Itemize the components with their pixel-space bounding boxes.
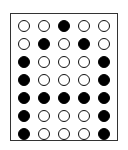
- matrix-cell: [54, 53, 74, 71]
- matrix-cell: [94, 35, 114, 53]
- matrix-cell: [94, 107, 114, 125]
- matrix-cell: [94, 53, 114, 71]
- filled-dot-icon: [78, 38, 90, 50]
- matrix-cell: [74, 53, 94, 71]
- matrix-cell: [54, 89, 74, 107]
- empty-dot-icon: [78, 74, 90, 86]
- filled-dot-icon: [98, 56, 110, 68]
- empty-dot-icon: [58, 110, 70, 122]
- matrix-cell: [14, 71, 34, 89]
- empty-dot-icon: [78, 56, 90, 68]
- empty-dot-icon: [38, 110, 50, 122]
- empty-dot-icon: [78, 20, 90, 32]
- empty-dot-icon: [78, 128, 90, 140]
- empty-dot-icon: [98, 38, 110, 50]
- filled-dot-icon: [58, 92, 70, 104]
- matrix-cell: [74, 89, 94, 107]
- empty-dot-icon: [38, 74, 50, 86]
- filled-dot-icon: [38, 92, 50, 104]
- matrix-cell: [34, 53, 54, 71]
- matrix-cell: [74, 125, 94, 143]
- filled-dot-icon: [78, 92, 90, 104]
- empty-dot-icon: [58, 74, 70, 86]
- filled-dot-icon: [38, 38, 50, 50]
- matrix-cell: [14, 53, 34, 71]
- matrix-cell: [74, 35, 94, 53]
- empty-dot-icon: [78, 110, 90, 122]
- filled-dot-icon: [98, 110, 110, 122]
- matrix-cell: [54, 17, 74, 35]
- filled-dot-icon: [18, 92, 30, 104]
- empty-dot-icon: [58, 38, 70, 50]
- matrix-cell: [34, 17, 54, 35]
- matrix-cell: [94, 89, 114, 107]
- filled-dot-icon: [18, 128, 30, 140]
- matrix-cell: [54, 71, 74, 89]
- matrix-cell: [74, 17, 94, 35]
- filled-dot-icon: [18, 110, 30, 122]
- matrix-cell: [54, 35, 74, 53]
- matrix-cell: [14, 89, 34, 107]
- empty-dot-icon: [18, 38, 30, 50]
- empty-dot-icon: [58, 56, 70, 68]
- filled-dot-icon: [98, 92, 110, 104]
- empty-dot-icon: [58, 128, 70, 140]
- matrix-cell: [34, 107, 54, 125]
- empty-dot-icon: [18, 20, 30, 32]
- empty-dot-icon: [38, 20, 50, 32]
- matrix-cell: [34, 35, 54, 53]
- matrix-cell: [14, 107, 34, 125]
- matrix-cell: [54, 107, 74, 125]
- matrix-cell: [74, 107, 94, 125]
- dot-matrix-grid: [14, 17, 114, 143]
- matrix-cell: [94, 17, 114, 35]
- matrix-cell: [34, 125, 54, 143]
- matrix-cell: [14, 35, 34, 53]
- filled-dot-icon: [98, 74, 110, 86]
- matrix-cell: [14, 17, 34, 35]
- filled-dot-icon: [58, 20, 70, 32]
- filled-dot-icon: [18, 56, 30, 68]
- matrix-cell: [14, 125, 34, 143]
- matrix-cell: [54, 125, 74, 143]
- filled-dot-icon: [18, 74, 30, 86]
- matrix-cell: [34, 89, 54, 107]
- matrix-cell: [94, 125, 114, 143]
- matrix-cell: [74, 71, 94, 89]
- matrix-cell: [94, 71, 114, 89]
- matrix-cell: [34, 71, 54, 89]
- empty-dot-icon: [38, 56, 50, 68]
- filled-dot-icon: [98, 128, 110, 140]
- empty-dot-icon: [98, 20, 110, 32]
- empty-dot-icon: [38, 128, 50, 140]
